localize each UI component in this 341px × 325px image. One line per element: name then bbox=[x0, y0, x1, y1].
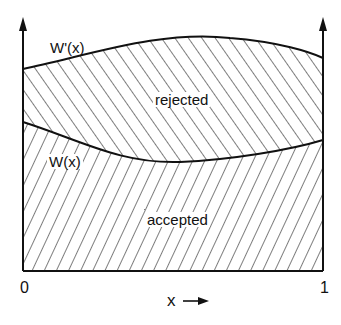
x-end-label: 1 bbox=[320, 280, 329, 296]
right-axis-arrow-icon bbox=[319, 17, 327, 31]
upper-curve-label: W'(x) bbox=[50, 40, 85, 55]
lower-curve-label: W(x) bbox=[47, 154, 83, 169]
accepted-region-label: accepted bbox=[145, 212, 210, 227]
x-arrow-icon bbox=[198, 297, 209, 305]
x-axis-label: x bbox=[167, 292, 176, 309]
rejected-region-label: rejected bbox=[153, 92, 210, 107]
left-axis-arrow-icon bbox=[19, 17, 27, 31]
x-origin-label: 0 bbox=[20, 280, 29, 296]
